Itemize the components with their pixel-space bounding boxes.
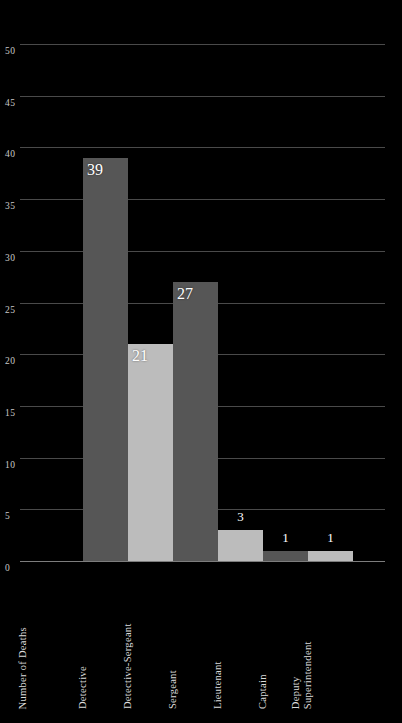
y-tick-label: 35	[5, 202, 15, 212]
x-axis-label: DeputySuperintendent	[290, 641, 314, 709]
bar-value-label: 3	[237, 510, 244, 523]
y-tick-label: 45	[5, 99, 15, 109]
gridline	[20, 147, 385, 148]
x-axis-label: Lieutenant	[212, 661, 224, 709]
x-axis-category-labels: DetectiveDetective-SergeantSergeantLieut…	[0, 567, 402, 723]
x-axis-label-line: Lieutenant	[212, 661, 223, 709]
bar-value-label: 39	[87, 162, 103, 178]
plot-area: 392127311	[20, 44, 385, 561]
x-axis-label: Detective	[77, 666, 89, 709]
x-axis-label-line: Detective	[77, 666, 88, 709]
x-axis-label-line: Detective-Sergeant	[122, 623, 133, 709]
y-tick-label: 15	[5, 409, 15, 419]
bar[interactable]: 27	[173, 282, 218, 561]
y-tick-label: 40	[5, 150, 15, 160]
y-tick-label: 25	[5, 306, 15, 316]
x-axis-label-line: Captain	[257, 674, 268, 709]
gridline	[20, 96, 385, 97]
bar-value-label: 27	[177, 286, 193, 302]
bar-value-label: 1	[282, 531, 289, 544]
gridline	[20, 251, 385, 252]
gridline	[20, 199, 385, 200]
bar-chart-figure: 392127311 05101520253035404550 Number of…	[0, 0, 402, 723]
y-tick-label: 30	[5, 254, 15, 264]
x-axis-label-line: Superintendent	[302, 641, 314, 709]
bar[interactable]: 39	[83, 158, 128, 561]
bar[interactable]: 1	[308, 551, 353, 561]
x-axis-label: Sergeant	[167, 670, 179, 709]
x-axis-label: Captain	[257, 674, 269, 709]
x-axis-label: Detective-Sergeant	[122, 623, 134, 709]
y-tick-label: 20	[5, 357, 15, 367]
y-tick-label: 5	[5, 512, 10, 522]
x-axis-label-line: Sergeant	[167, 670, 178, 709]
bar-value-label: 21	[132, 348, 148, 364]
bar-value-label: 1	[327, 531, 334, 544]
bar[interactable]: 21	[128, 344, 173, 561]
bar[interactable]: 1	[263, 551, 308, 561]
bar[interactable]: 3	[218, 530, 263, 561]
x-axis-label-line: Deputy	[290, 676, 301, 709]
gridline	[20, 44, 385, 45]
gridline	[20, 561, 385, 562]
y-tick-label: 50	[5, 47, 15, 57]
y-tick-label: 10	[5, 461, 15, 471]
